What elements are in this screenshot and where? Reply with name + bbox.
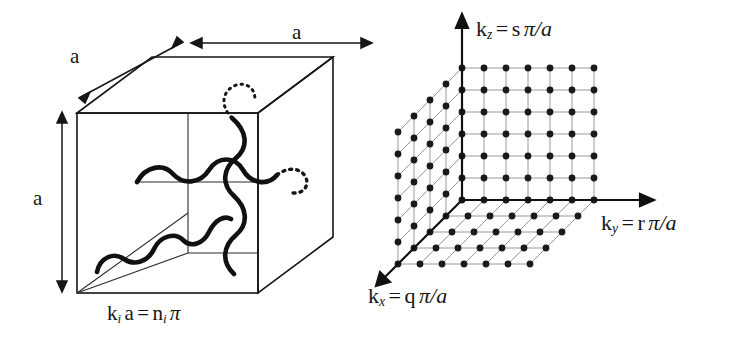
lattice-point xyxy=(591,109,598,116)
lattice-point xyxy=(591,87,598,94)
axis-ky-k: k xyxy=(601,210,612,235)
lattice-point xyxy=(481,109,488,116)
lattice-point xyxy=(503,109,510,116)
cube-caption-a: a xyxy=(124,301,133,325)
lattice-point xyxy=(427,119,434,126)
lattice-point xyxy=(503,175,510,182)
lattice-point xyxy=(449,229,456,236)
lattice-point xyxy=(471,229,478,236)
lattice-point xyxy=(525,87,532,94)
lattice-point xyxy=(461,261,468,268)
lattice-point xyxy=(591,65,598,72)
cube-front-face xyxy=(77,113,258,293)
lattice-point xyxy=(525,131,532,138)
lattice-point xyxy=(427,163,434,170)
lattice-point xyxy=(547,153,554,160)
lattice-point xyxy=(531,213,538,220)
lattice-point xyxy=(443,147,450,154)
lattice-point xyxy=(547,131,554,138)
lattice-point xyxy=(395,151,402,158)
lattice-point xyxy=(569,153,576,160)
cube-right-face xyxy=(258,57,333,293)
lattice-point xyxy=(395,129,402,136)
lattice-axes xyxy=(376,14,654,286)
physics-figure xyxy=(0,0,733,348)
lattice-point xyxy=(525,65,532,72)
lattice-point xyxy=(427,97,434,104)
lattice-point xyxy=(591,131,598,138)
cube-caption-equals: = xyxy=(137,301,149,325)
lattice-point xyxy=(427,207,434,214)
lattice-point xyxy=(525,109,532,116)
lattice-point xyxy=(537,229,544,236)
lattice-point xyxy=(411,135,418,142)
lattice-point xyxy=(569,175,576,182)
lattice-point xyxy=(515,229,522,236)
dimension-label-depth: a xyxy=(70,46,79,67)
axis-kz-subscript: z xyxy=(487,27,492,42)
axis-ky-subscript: y xyxy=(612,221,618,236)
lattice-point xyxy=(505,261,512,268)
dimension-label-height: a xyxy=(33,188,42,209)
lattice-point xyxy=(433,245,440,252)
lattice-point xyxy=(443,169,450,176)
lattice-point xyxy=(477,245,484,252)
axis-ky-arrowhead xyxy=(640,194,654,206)
wave-horizontal xyxy=(137,160,277,183)
lattice-point xyxy=(395,173,402,180)
lattice-point xyxy=(499,245,506,252)
axis-ky-unit: π/a xyxy=(648,210,676,235)
axis-kx-unit: π/a xyxy=(419,283,447,308)
real-space-cube xyxy=(57,37,372,293)
lattice-point xyxy=(411,157,418,164)
lattice-point xyxy=(411,201,418,208)
lattice-point xyxy=(427,141,434,148)
wave-horizontal-dotted-extension xyxy=(277,169,307,193)
lattice-point xyxy=(443,125,450,132)
lattice-point xyxy=(525,175,532,182)
axis-kx-line xyxy=(381,200,462,281)
axis-label-kx: kx=qπ/a xyxy=(368,285,447,309)
lattice-point xyxy=(427,185,434,192)
lattice-point xyxy=(395,195,402,202)
lattice-point xyxy=(455,245,462,252)
lattice-point xyxy=(525,153,532,160)
axis-kz-unit: π/a xyxy=(524,16,552,41)
lattice-point xyxy=(547,175,554,182)
axis-kx-equals: = xyxy=(389,283,401,308)
lattice-point xyxy=(481,175,488,182)
cube-caption-k-sub: i xyxy=(118,311,122,326)
axis-label-ky: ky=rπ/a xyxy=(601,212,677,236)
lattice-point xyxy=(481,65,488,72)
lattice-point xyxy=(395,239,402,246)
lattice-point xyxy=(443,191,450,198)
lattice-point xyxy=(547,87,554,94)
lattice-point xyxy=(553,213,560,220)
axis-kx-k: k xyxy=(368,283,379,308)
axis-kz-arrowhead xyxy=(456,14,468,28)
lattice-point xyxy=(417,261,424,268)
wave-vertical xyxy=(225,118,245,274)
lattice-point xyxy=(443,81,450,88)
axis-kz-k: k xyxy=(476,16,487,41)
axis-label-kz: kz=sπ/a xyxy=(476,18,552,42)
lattice-point xyxy=(503,65,510,72)
axis-kx-subscript: x xyxy=(379,294,385,309)
cube-caption: kia=niπ xyxy=(107,303,180,325)
interior-diagonal-line-2 xyxy=(77,253,188,293)
lattice-point xyxy=(591,175,598,182)
lattice-point xyxy=(481,131,488,138)
lattice-point xyxy=(575,213,582,220)
k-space-lattice xyxy=(376,14,654,286)
dimension-arrow-depth xyxy=(79,37,183,103)
cube-caption-n-sub: i xyxy=(163,311,167,326)
lattice-point xyxy=(569,109,576,116)
lattice-point xyxy=(547,65,554,72)
lattice-point xyxy=(439,261,446,268)
lattice-point xyxy=(521,245,528,252)
lattice-point xyxy=(591,153,598,160)
lattice-point xyxy=(481,153,488,160)
interior-diagonal-line xyxy=(77,213,188,293)
lattice-point xyxy=(503,87,510,94)
cube-caption-k: k xyxy=(107,301,118,325)
